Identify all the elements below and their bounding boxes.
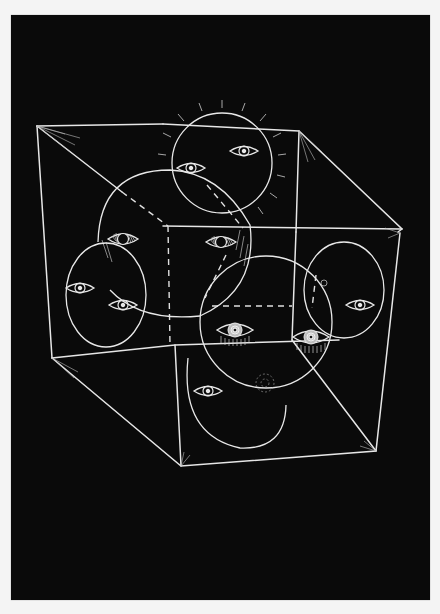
vertex-hatching	[37, 126, 400, 466]
cube-of-eyes-drawing	[0, 0, 440, 614]
left-sphere	[66, 243, 146, 347]
center-sphere	[200, 256, 332, 392]
cube-wireframe	[37, 124, 402, 466]
right-sphere	[304, 242, 384, 338]
top-sphere	[158, 100, 286, 214]
hidden-edges	[122, 185, 316, 345]
bottom-sphere	[187, 358, 286, 448]
